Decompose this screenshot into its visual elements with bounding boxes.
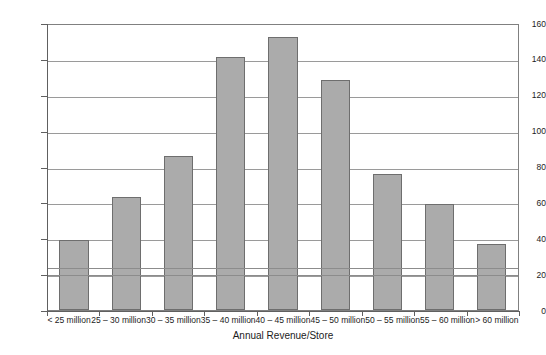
bar[interactable] (425, 204, 454, 310)
x-axis-label: 55 – 60 million (420, 316, 475, 325)
x-axis-label: 30 – 35 million (146, 316, 201, 325)
bar[interactable] (216, 57, 245, 310)
bar-chart: 020406080100120140160 < 25 million25 – 3… (0, 0, 546, 355)
x-axis-labels: < 25 million25 – 30 million30 – 35 milli… (47, 316, 519, 325)
plot-area (47, 24, 519, 311)
reference-line (48, 268, 518, 269)
bar[interactable] (268, 37, 297, 310)
x-axis-label: 45 – 50 million (310, 316, 365, 325)
x-axis-label: 35 – 40 million (201, 316, 256, 325)
x-axis-title: Annual Revenue/Store (47, 330, 519, 341)
reference-line (48, 275, 518, 276)
bar[interactable] (477, 244, 506, 310)
x-axis-label: 50 – 55 million (365, 316, 420, 325)
bar[interactable] (164, 156, 193, 310)
x-axis-label: > 60 million (475, 316, 519, 325)
x-axis-spine (47, 311, 520, 312)
x-axis-label: 40 – 45 million (256, 316, 311, 325)
x-tick (519, 311, 520, 316)
x-axis-label: 25 – 30 million (91, 316, 146, 325)
bar[interactable] (112, 197, 141, 310)
x-axis-label: < 25 million (47, 316, 91, 325)
bar[interactable] (373, 174, 402, 310)
